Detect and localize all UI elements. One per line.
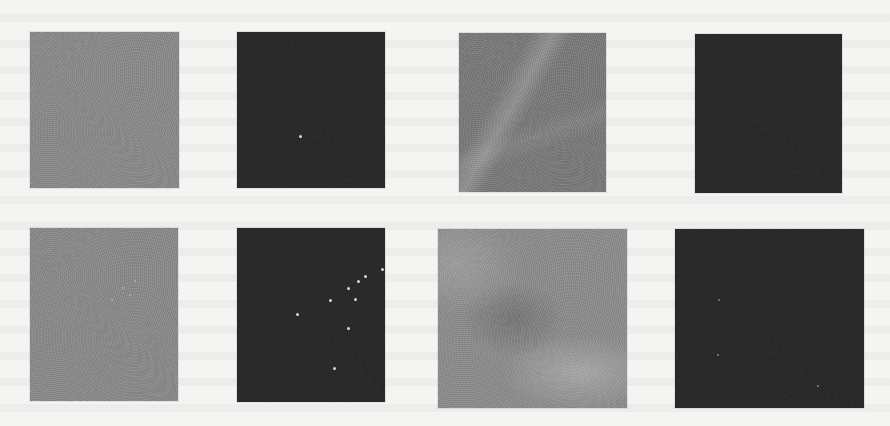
image-patch-r2-c3 [438,229,627,408]
bright-speck [354,298,357,301]
bright-speck [122,287,124,289]
image-patch-r2-c4 [675,229,864,408]
texture-grain [459,33,606,192]
texture-grain [237,228,385,402]
bright-speck [347,327,350,330]
texture-grain [675,229,864,408]
texture-grain [30,228,178,401]
bright-speck [347,287,350,290]
image-patch-r2-c1 [30,228,178,401]
texture-grain [438,229,627,408]
texture-grain [695,34,842,193]
texture-grain [30,32,179,188]
image-patch-r1-c2 [237,32,385,188]
image-patch-r1-c1 [30,32,179,188]
bright-speck [817,385,819,387]
bright-speck [134,280,136,282]
bright-speck [129,294,131,296]
image-patch-r1-c4 [695,34,842,193]
image-patch-r1-c3 [459,33,606,192]
texture-grain [237,32,385,188]
image-patch-r2-c2 [237,228,385,402]
bright-speck [381,268,384,271]
